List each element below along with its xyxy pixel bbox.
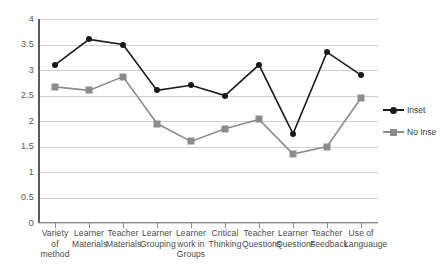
x-axis-tick-label: Use of Languauge: [344, 228, 378, 249]
data-point: [222, 125, 229, 132]
x-axis-tick-mark: [191, 223, 192, 228]
x-axis-tick-label: Learner Materials: [72, 228, 106, 249]
x-axis-tick-label: Learner Questions: [276, 228, 310, 249]
data-point: [154, 120, 161, 127]
data-point: [324, 143, 331, 150]
x-axis-tick-mark: [55, 223, 56, 228]
x-axis-tick-label: Learner work in Groups: [174, 228, 208, 260]
y-axis-tick-label: 2.5: [0, 91, 34, 100]
x-axis-tick-mark: [293, 223, 294, 228]
x-axis-tick-mark: [361, 223, 362, 228]
y-axis-tick-label: 1.5: [0, 142, 34, 151]
data-point: [358, 95, 365, 102]
y-axis-tick-labels: 43.532.521.510.50: [0, 19, 34, 223]
data-point: [358, 72, 364, 78]
data-point: [86, 87, 93, 94]
x-axis-tick-label: Variety of method: [38, 228, 72, 260]
x-axis-tick-mark: [225, 223, 226, 228]
chart-legend: InsetNo Inse: [383, 99, 440, 143]
data-point: [256, 116, 263, 123]
y-axis-tick-label: 3.5: [0, 40, 34, 49]
data-point: [222, 93, 228, 99]
x-axis-tick-mark: [259, 223, 260, 228]
y-axis-tick-label: 3: [0, 66, 34, 75]
x-axis-tick-label: Teacher Feedback: [310, 228, 344, 249]
data-point: [188, 138, 195, 145]
data-point: [120, 42, 126, 48]
x-axis-tick-mark: [89, 223, 90, 228]
legend-item[interactable]: No Inse: [383, 121, 440, 143]
y-axis-tick-label: 1: [0, 168, 34, 177]
data-point: [188, 82, 194, 88]
x-axis-tick-label: Learner Grouping: [140, 228, 174, 249]
legend-swatch-icon: [383, 127, 404, 137]
data-point: [256, 62, 262, 68]
x-axis-tick-mark: [123, 223, 124, 228]
y-axis-tick-label: 2: [0, 117, 34, 126]
x-axis-tick-mark: [327, 223, 328, 228]
legend-label: Inset: [407, 106, 425, 115]
x-axis-tick-mark: [157, 223, 158, 228]
data-point: [86, 36, 92, 42]
data-point: [290, 131, 296, 137]
data-point: [52, 62, 58, 68]
x-axis-tick-label: Teacher Materials: [106, 228, 140, 249]
x-axis-tick-label: Teacher Questions: [242, 228, 276, 249]
legend-label: No Inse: [407, 128, 436, 137]
y-axis-tick-label: 0.5: [0, 193, 34, 202]
y-axis-tick-label: 4: [0, 15, 34, 24]
x-axis-tick-labels: Variety of methodLearner MaterialsTeache…: [38, 228, 378, 267]
x-axis-tick-label: Critical Thinking: [208, 228, 242, 249]
data-point: [324, 49, 330, 55]
line-chart: 43.532.521.510.50 Variety of methodLearn…: [0, 0, 440, 267]
data-point: [120, 73, 127, 80]
data-point: [52, 83, 59, 90]
y-axis-tick-label: 0: [0, 219, 34, 228]
plot-area: [38, 19, 378, 223]
legend-swatch-icon: [383, 105, 404, 115]
data-point: [154, 87, 160, 93]
series-markers: [38, 19, 378, 223]
legend-item[interactable]: Inset: [383, 99, 440, 121]
data-point: [290, 151, 297, 158]
